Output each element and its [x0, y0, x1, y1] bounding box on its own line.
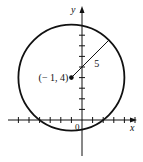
center-point: [69, 75, 74, 80]
x-axis-label: x: [129, 122, 135, 133]
diagram-canvas: x y 0 (− 1, 4) 5: [0, 0, 143, 162]
radius-label: 5: [94, 58, 99, 69]
coordinate-plane: x y 0 (− 1, 4) 5: [0, 0, 143, 162]
center-label: (− 1, 4): [39, 72, 69, 84]
radius-segment: [71, 40, 108, 77]
y-axis-label: y: [70, 4, 76, 15]
origin-label: 0: [75, 122, 80, 132]
y-axis-arrowhead: [80, 6, 85, 13]
